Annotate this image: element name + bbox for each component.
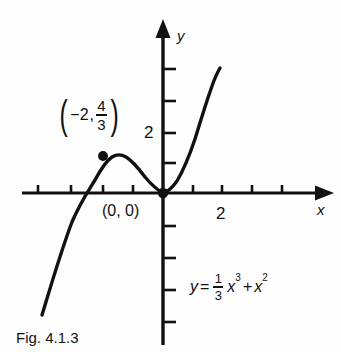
equation-equals: = bbox=[200, 279, 209, 295]
y-axis-arrowhead bbox=[156, 19, 171, 38]
x-axis-arrowhead bbox=[315, 186, 334, 201]
equation-label: y = 1 3 x3 + x2 bbox=[190, 272, 268, 302]
origin-point-marker bbox=[158, 188, 168, 198]
y-axis-label: y bbox=[177, 28, 185, 43]
graph-canvas bbox=[0, 0, 341, 352]
open-paren: ( bbox=[60, 99, 68, 132]
fraction-numerator: 4 bbox=[96, 98, 106, 113]
ordered-pair: ( −2 , 4 3 ) bbox=[57, 98, 121, 132]
figure-caption: Fig. 4.1.3 bbox=[16, 330, 79, 345]
coefficient-numerator: 1 bbox=[215, 272, 222, 285]
x-tick-label-2: 2 bbox=[216, 205, 225, 222]
equation-coefficient-fraction: 1 3 bbox=[213, 272, 223, 302]
term-two-exponent: 2 bbox=[262, 272, 268, 283]
term-one-exponent: 3 bbox=[235, 272, 241, 283]
x-axis-label: x bbox=[317, 202, 325, 217]
origin-coordinate-label: (0, 0) bbox=[102, 203, 139, 219]
figure-container: y x 2 2 (0, 0) ( −2 , 4 3 ) y = bbox=[0, 0, 341, 352]
equation-plus: + bbox=[243, 279, 252, 295]
coefficient-denominator: 3 bbox=[215, 289, 222, 302]
ordered-pair-comma: , bbox=[90, 107, 94, 123]
y-tick-label-2: 2 bbox=[144, 124, 153, 141]
equation: y = 1 3 x3 + x2 bbox=[190, 272, 268, 302]
max-point-coordinate-label: ( −2 , 4 3 ) bbox=[57, 98, 121, 132]
equation-term-one: x3 bbox=[227, 278, 241, 295]
equation-lhs: y bbox=[190, 279, 198, 295]
max-point-y-fraction: 4 3 bbox=[96, 98, 107, 132]
equation-term-two: x2 bbox=[254, 278, 268, 295]
max-point-marker bbox=[98, 151, 108, 161]
close-paren: ) bbox=[111, 99, 119, 132]
max-point-x-value: −2 bbox=[70, 107, 88, 123]
fraction-denominator: 3 bbox=[96, 117, 106, 132]
ordered-pair-body: −2 , 4 3 bbox=[70, 98, 108, 132]
